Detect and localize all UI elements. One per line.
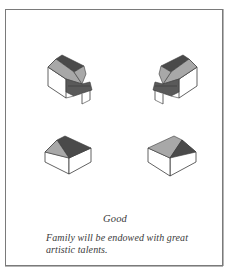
plain-house-bottom-right-icon bbox=[144, 130, 198, 182]
figure-frame: Good Family will be endowed with great a… bbox=[5, 9, 223, 266]
house-with-steps-top-left-icon bbox=[46, 52, 98, 110]
house-with-steps-top-right-icon bbox=[147, 52, 199, 110]
description-text: Family will be endowed with great artist… bbox=[46, 232, 211, 256]
plain-house-bottom-left-icon bbox=[43, 130, 95, 180]
verdict-caption: Good bbox=[6, 213, 224, 224]
